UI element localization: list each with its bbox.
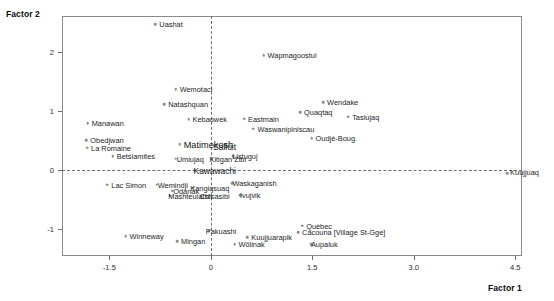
data-point bbox=[178, 143, 181, 146]
x-axis-tick-label: 3.0 bbox=[409, 263, 419, 272]
y-axis-tick-label: 0 bbox=[36, 166, 54, 175]
data-point-label: Chisasibi bbox=[200, 193, 230, 200]
data-point bbox=[86, 122, 89, 125]
data-point-label: Kuujjuaq bbox=[510, 169, 539, 176]
data-point bbox=[174, 88, 177, 91]
y-axis-tick bbox=[58, 52, 62, 53]
y-axis-tick-label: -1 bbox=[36, 225, 54, 234]
data-point bbox=[310, 137, 313, 140]
point-marker-icon bbox=[246, 236, 249, 239]
data-point-label: Mingan bbox=[181, 238, 205, 245]
x-axis-tick bbox=[109, 256, 110, 260]
data-point bbox=[187, 118, 190, 121]
point-marker-icon bbox=[322, 101, 325, 104]
data-point-label: Umiujaq bbox=[177, 156, 204, 163]
x-axis-tick bbox=[312, 256, 313, 260]
data-point-label: Eastmain bbox=[248, 116, 279, 123]
point-marker-icon bbox=[154, 23, 157, 26]
data-point bbox=[85, 139, 88, 142]
data-point bbox=[262, 54, 265, 57]
x-axis-tick-label: 4.5 bbox=[510, 263, 520, 272]
data-point bbox=[299, 111, 302, 114]
point-marker-icon bbox=[297, 231, 300, 234]
x-axis-tick bbox=[211, 256, 212, 260]
point-marker-icon bbox=[301, 224, 304, 227]
point-marker-icon bbox=[86, 122, 89, 125]
point-marker-icon bbox=[163, 103, 166, 106]
point-marker-icon bbox=[178, 143, 181, 146]
point-marker-icon bbox=[176, 240, 179, 243]
point-marker-icon bbox=[506, 172, 509, 175]
data-point bbox=[246, 236, 249, 239]
point-marker-icon bbox=[106, 184, 109, 187]
point-marker-icon bbox=[299, 111, 302, 114]
data-point-label: Oudjé-Boug. bbox=[316, 135, 358, 142]
data-point-label: Salluit bbox=[213, 143, 236, 151]
vertical-reference-line bbox=[211, 16, 212, 256]
x-axis-tick bbox=[515, 256, 516, 260]
point-marker-icon bbox=[243, 117, 246, 120]
data-point-label: Tasiujaq bbox=[352, 114, 379, 121]
data-point-label: Betsiamites bbox=[117, 153, 155, 160]
data-point-label: Waswanipiniscau bbox=[257, 126, 314, 133]
y-axis-tick-label: 2 bbox=[36, 47, 54, 56]
point-marker-icon bbox=[347, 115, 350, 118]
point-marker-icon bbox=[310, 137, 313, 140]
y-axis-tick-label: 1 bbox=[36, 106, 54, 115]
x-axis-tick-label: 1.5 bbox=[307, 263, 317, 272]
data-point-label: Kawawachi bbox=[194, 167, 236, 175]
data-point bbox=[154, 23, 157, 26]
data-point bbox=[86, 146, 89, 149]
data-point-label: Quaqtaq bbox=[304, 109, 332, 116]
horizontal-reference-line bbox=[62, 170, 522, 171]
data-point-label: Manawan bbox=[92, 120, 124, 127]
x-axis-tick-label: 0 bbox=[209, 263, 213, 272]
x-axis-tick-label: -1.5 bbox=[103, 263, 116, 272]
data-point-label: Uashat bbox=[159, 21, 182, 28]
data-point bbox=[176, 240, 179, 243]
point-marker-icon bbox=[252, 127, 255, 130]
data-point bbox=[163, 103, 166, 106]
data-point bbox=[322, 100, 325, 103]
point-marker-icon bbox=[86, 146, 89, 149]
data-point-label: Waskaganish bbox=[232, 180, 276, 187]
data-point-label: Wendake bbox=[327, 99, 358, 106]
data-point-label: Pakuashi bbox=[206, 228, 236, 235]
point-marker-icon bbox=[85, 139, 88, 142]
point-marker-icon bbox=[124, 235, 127, 238]
data-point-label: Aupaluk bbox=[311, 241, 338, 248]
point-marker-icon bbox=[233, 243, 236, 246]
data-point-label: Wôlinak bbox=[239, 241, 265, 248]
data-point-label: Ivujvik bbox=[240, 192, 261, 199]
data-point bbox=[233, 243, 236, 246]
data-point-label: Kebaowek bbox=[193, 116, 228, 123]
data-point bbox=[347, 115, 350, 118]
point-marker-icon bbox=[262, 54, 265, 57]
data-point-label: Natashquan bbox=[168, 101, 208, 108]
data-point bbox=[252, 127, 255, 130]
data-point bbox=[242, 117, 245, 120]
data-point bbox=[106, 183, 109, 186]
point-marker-icon bbox=[187, 118, 190, 121]
data-point bbox=[111, 155, 114, 158]
point-marker-icon bbox=[111, 155, 114, 158]
data-point bbox=[506, 172, 509, 175]
y-axis-title: Factor 2 bbox=[6, 9, 40, 19]
data-point-label: Winneway bbox=[130, 233, 164, 240]
plot-area: UashatWapmagoostuiWemotaciNatashquanWend… bbox=[62, 16, 522, 256]
x-axis-tick bbox=[414, 256, 415, 260]
x-axis-title: Factor 1 bbox=[488, 283, 522, 293]
data-point-label: Listuguj bbox=[232, 153, 257, 160]
point-marker-icon bbox=[174, 88, 177, 91]
data-point-label: La Romaine bbox=[91, 145, 131, 152]
data-point bbox=[301, 224, 304, 227]
y-axis-tick bbox=[58, 229, 62, 230]
data-point-label: Wemotaci bbox=[180, 86, 213, 93]
data-point-label: Cacouna [Village St-Gge] bbox=[302, 229, 385, 236]
scatter-plot-figure: Factor 2 Factor 1 UashatWapmagoostuiWemo… bbox=[0, 0, 554, 301]
y-axis-tick bbox=[58, 111, 62, 112]
y-axis-tick bbox=[58, 170, 62, 171]
data-point-label: Wapmagoostui bbox=[268, 52, 317, 59]
data-point-label: Lac Simon bbox=[111, 182, 146, 189]
data-point bbox=[297, 231, 300, 234]
